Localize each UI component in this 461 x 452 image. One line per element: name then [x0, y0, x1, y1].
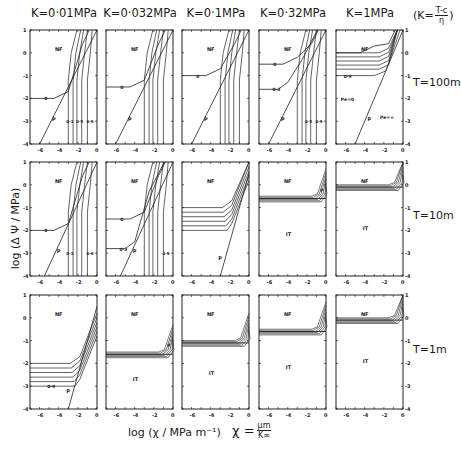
x-tick-label: 0	[247, 412, 251, 418]
panel-T=10m-0·32MPa: -6-4-20NFITP	[259, 162, 328, 285]
it-label: IT	[363, 358, 369, 364]
k-def-numerator: T-c	[435, 6, 448, 16]
panel-T=100m-1MPa: -6-4-20-4-3-2-101NFP0·9Pe=0Pe=∞	[336, 27, 411, 153]
x-tick-label: -6	[38, 412, 44, 418]
it-label: IT	[286, 231, 292, 237]
x-tick-label: 0	[401, 279, 405, 285]
curve-label: 0·9	[47, 384, 55, 389]
x-tick-label: -2	[382, 412, 388, 418]
y-tick-label: -3	[405, 250, 411, 256]
curve-label: 0·9	[86, 119, 93, 124]
x-tick-label: -6	[344, 412, 350, 418]
y-tick-label: -2	[23, 227, 29, 233]
y-tick-label: 1	[405, 292, 409, 298]
x-tick-label: -2	[152, 147, 158, 153]
curve-label: 0	[196, 74, 199, 79]
x-tick-label: -4	[286, 279, 292, 285]
x-tick-label: 0	[324, 147, 328, 153]
y-tick-label: -3	[405, 383, 411, 389]
row-label-t100: T=100m	[413, 76, 461, 89]
column-title-k0032: K=0·032MPa	[100, 6, 180, 20]
x-tick-label: -2	[305, 147, 311, 153]
y-tick-label: -2	[405, 227, 411, 233]
chi-definition: χ = μm K∞	[232, 421, 271, 440]
x-tick-label: -2	[382, 279, 388, 285]
x-tick-label: -6	[267, 412, 273, 418]
x-tick-label: -2	[76, 147, 82, 153]
p-label: P	[204, 116, 208, 122]
panel-T=10m-0·032MPa: -6-4-20NFP00·30·9	[106, 162, 175, 285]
panel-T=100m-0·01MPa: -6-4-20-4-3-2-101NFP00·10·50·9	[23, 27, 99, 153]
chi-def-lhs: χ =	[232, 423, 255, 438]
x-tick-label: -6	[190, 412, 196, 418]
column-title-k001: K=0·01MPa	[24, 6, 104, 20]
y-tick-label: 0	[23, 50, 27, 56]
x-tick-label: -4	[209, 147, 215, 153]
nf-label: NF	[284, 178, 292, 184]
it-label: IT	[286, 364, 292, 370]
chi-def-fraction: μm K∞	[257, 421, 272, 440]
x-tick-label: 0	[171, 412, 175, 418]
nf-label: NF	[131, 178, 139, 184]
k-def-prefix: (K=	[413, 9, 434, 22]
y-tick-label: 0	[23, 315, 27, 321]
y-tick-label: -4	[405, 273, 411, 279]
panel-T=1m-0·1MPa: -6-4-20NFIT	[182, 295, 251, 418]
y-tick-label: 1	[405, 159, 409, 165]
y-tick-label: 0	[405, 182, 409, 188]
it-label: IT	[133, 376, 139, 382]
x-tick-label: -2	[305, 412, 311, 418]
y-tick-label: -3	[23, 383, 29, 389]
panel-T=1m-1MPa: -6-4-20-4-3-2-101NFIT	[336, 292, 411, 418]
y-tick-label: -2	[405, 360, 411, 366]
y-tick-label: -4	[405, 406, 411, 412]
p-label: P	[66, 388, 70, 394]
x-tick-label: -4	[286, 412, 292, 418]
x-tick-label: -6	[114, 147, 120, 153]
nf-label: NF	[361, 178, 369, 184]
x-tick-label: -4	[133, 412, 139, 418]
nf-label: NF	[284, 311, 292, 317]
panel-T=10m-0·1MPa: -6-4-20NFP	[182, 162, 251, 285]
nf-label: NF	[207, 311, 215, 317]
nf-label: NF	[131, 46, 139, 52]
x-tick-label: -6	[114, 412, 120, 418]
nf-label: NF	[55, 178, 63, 184]
x-tick-label: -6	[38, 279, 44, 285]
curve-label: 0·3	[272, 87, 280, 92]
x-tick-label: 0	[401, 412, 405, 418]
it-label: IT	[363, 225, 369, 231]
y-tick-label: -3	[405, 118, 411, 124]
curve-label: 0·9	[86, 251, 93, 256]
y-tick-label: -2	[405, 95, 411, 101]
it-label: IT	[209, 370, 215, 376]
nf-label: NF	[361, 311, 369, 317]
x-tick-label: -2	[382, 147, 388, 153]
x-tick-label: -6	[344, 279, 350, 285]
y-tick-label: 0	[405, 315, 409, 321]
x-tick-label: 0	[247, 147, 251, 153]
curve-label: 0	[120, 217, 123, 222]
pe-inf-label: Pe=∞	[380, 115, 394, 120]
x-tick-label: -4	[363, 412, 369, 418]
row-label-t1: T=1m	[413, 343, 447, 356]
p-label: P	[52, 116, 56, 122]
curve-label: 0·5	[76, 119, 83, 124]
x-tick-label: -4	[363, 279, 369, 285]
column-title-k01: K=0·1MPa	[176, 6, 256, 20]
y-tick-label: -3	[23, 118, 29, 124]
x-tick-label: 0	[401, 147, 405, 153]
x-tick-label: -2	[152, 279, 158, 285]
x-tick-label: 0	[95, 147, 99, 153]
y-tick-label: -2	[23, 95, 29, 101]
y-axis-label: log (Δ Ψ / MPa)	[9, 174, 22, 284]
x-tick-label: -2	[76, 279, 82, 285]
y-tick-label: -1	[405, 205, 411, 211]
x-axis-label: log (χ / MPa m⁻¹)	[128, 426, 221, 439]
nf-label: NF	[284, 46, 292, 52]
pe-zero-label: Pe=0	[341, 97, 354, 102]
curve-label: 0	[273, 62, 276, 67]
p-label: P	[128, 116, 132, 122]
x-tick-label: -4	[363, 147, 369, 153]
